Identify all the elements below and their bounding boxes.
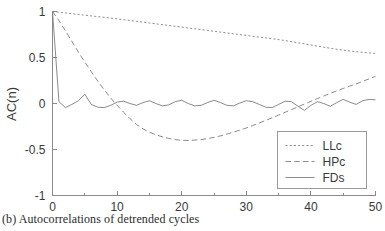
y-tick-label: -0.5: [25, 143, 46, 157]
x-tick-label: 50: [369, 200, 383, 214]
legend-label-fds: FDs: [323, 171, 345, 185]
data-series-group: [53, 12, 376, 141]
y-tick-label: -1: [35, 189, 46, 203]
y-tick-label: 0.5: [29, 51, 46, 65]
series-line-hpc: [53, 12, 376, 141]
x-tick-label: 40: [304, 200, 318, 214]
legend-label-llc: LLc: [323, 139, 342, 153]
x-axis-ticks: 01020304050: [49, 191, 382, 214]
y-axis-ticks: -1-0.500.51: [25, 5, 57, 203]
series-line-fds: [53, 12, 376, 111]
y-axis-title-label: AC(n): [4, 87, 19, 121]
figure-caption: (b) Autocorrelations of detrended cycles: [2, 212, 199, 227]
series-line-llc: [53, 12, 376, 54]
x-tick-label: 30: [240, 200, 254, 214]
y-tick-label: 0: [39, 97, 46, 111]
y-tick-label: 1: [39, 5, 46, 19]
figure-panel: AC(n) -1-0.500.51 01020304050 LLcHPcFDs …: [0, 0, 385, 231]
y-axis-title: AC(n): [4, 87, 19, 121]
chart-legend: LLcHPcFDs: [278, 132, 367, 189]
legend-label-hpc: HPc: [323, 155, 346, 169]
autocorrelation-chart: AC(n) -1-0.500.51 01020304050 LLcHPcFDs: [0, 0, 385, 231]
